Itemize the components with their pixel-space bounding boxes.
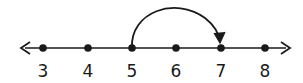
tick-label-6: 6: [171, 61, 182, 81]
tick-dot-6: [172, 44, 180, 52]
tick-label-3: 3: [38, 61, 49, 81]
tick-dot-3: [39, 44, 47, 52]
tick-label-7: 7: [216, 61, 227, 81]
tick-dot-8: [261, 44, 269, 52]
jump-arc: [132, 8, 220, 48]
tick-group: 345678: [38, 44, 271, 81]
number-line-diagram: 345678: [0, 0, 303, 83]
jump-arrowhead-icon: [214, 32, 225, 43]
tick-dot-5: [128, 44, 136, 52]
tick-dot-4: [84, 44, 92, 52]
tick-label-5: 5: [127, 61, 138, 81]
tick-label-4: 4: [83, 61, 94, 81]
tick-label-8: 8: [260, 61, 271, 81]
tick-dot-7: [217, 44, 225, 52]
